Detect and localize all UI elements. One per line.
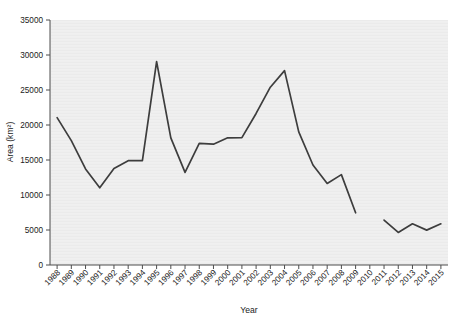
y-axis-tick-label: 5000 <box>25 226 44 235</box>
y-axis-tick-label: 25000 <box>20 86 43 95</box>
y-axis-tick-label: 15000 <box>20 156 43 165</box>
y-axis-title: Area (km²) <box>5 122 15 163</box>
y-axis-tick-label: 20000 <box>20 121 43 130</box>
figure-caption <box>6 307 206 317</box>
gridlines <box>51 22 448 262</box>
y-axis-tick-label: 10000 <box>20 191 43 200</box>
line-chart: 05000100001500020000250003000035000 1988… <box>0 0 458 321</box>
chart-figure: 05000100001500020000250003000035000 1988… <box>0 0 458 321</box>
y-axis-tick-label: 35000 <box>20 16 43 25</box>
y-axis-tick-label: 0 <box>38 261 43 270</box>
y-axis-tick-label: 30000 <box>20 51 43 60</box>
x-axis-title: Year <box>240 305 258 315</box>
